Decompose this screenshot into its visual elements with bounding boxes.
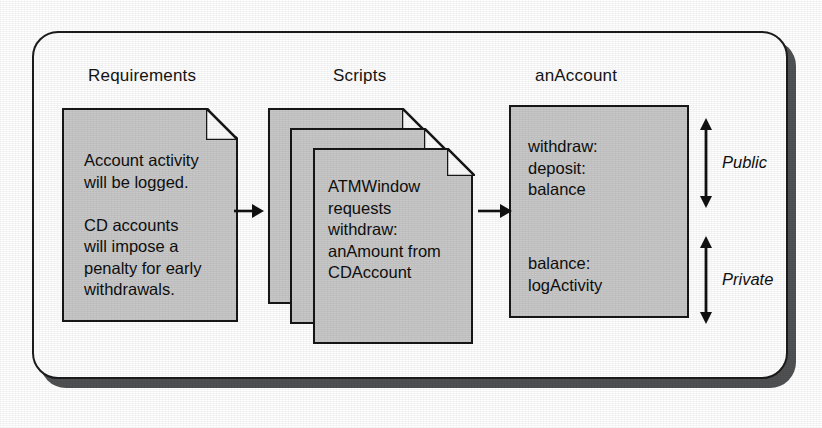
public-label: Public <box>722 153 767 172</box>
private-label: Private <box>722 270 773 289</box>
arrow-scripts-to-account-icon <box>478 202 512 220</box>
page-fold-icon <box>206 108 238 140</box>
account-public-members: withdraw: deposit: balance <box>528 136 598 201</box>
account-private-members: balance: logActivity <box>528 253 602 296</box>
heading-requirements: Requirements <box>88 66 196 86</box>
heading-scripts: Scripts <box>333 66 386 86</box>
scripts-document-text: ATMWindow requests withdraw: anAmount fr… <box>328 176 478 284</box>
public-range-arrow-icon <box>696 118 716 208</box>
diagram-canvas: Requirements Scripts anAccount Account a… <box>0 0 822 428</box>
requirements-document-text: Account activity will be logged. CD acco… <box>84 150 234 301</box>
page-fold-icon <box>447 148 475 176</box>
arrow-requirements-to-scripts-icon <box>234 202 264 220</box>
private-range-arrow-icon <box>696 236 716 324</box>
heading-account: anAccount <box>535 66 617 86</box>
